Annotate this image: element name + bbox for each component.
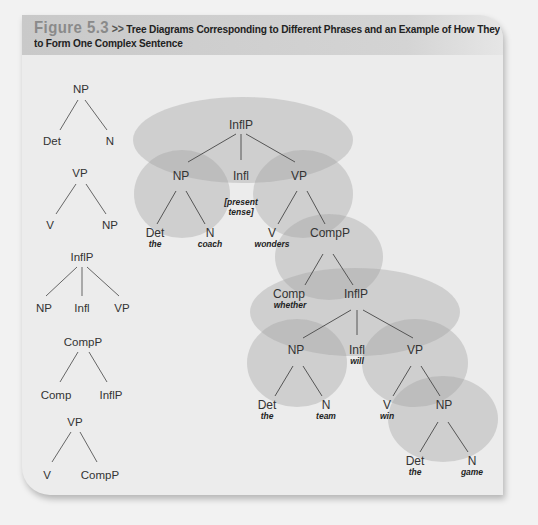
infl-note-line-1: [present xyxy=(223,197,259,207)
node-vp-2: VP xyxy=(407,343,423,357)
node-v: V xyxy=(46,219,54,231)
ellipse-np-team xyxy=(247,319,347,407)
node-compp: CompP xyxy=(81,469,120,481)
node-v-1: V xyxy=(268,226,276,240)
node-vp: VP xyxy=(67,416,83,428)
word-coach: coach xyxy=(198,239,223,249)
ellipse-np-game xyxy=(388,376,498,462)
node-vp: VP xyxy=(114,302,130,314)
node-np-3: NP xyxy=(436,398,453,412)
node-n-2: N xyxy=(322,398,331,412)
node-inflp-2: InflP xyxy=(344,287,368,301)
node-infl-1: Infl xyxy=(233,169,249,183)
word-the-2: the xyxy=(261,411,274,421)
node-np-2: NP xyxy=(288,343,305,357)
node-np-1: NP xyxy=(173,169,190,183)
node-inflp: InflP xyxy=(99,389,122,401)
node-v-2: V xyxy=(383,398,391,412)
node-n: N xyxy=(106,135,114,147)
node-np: NP xyxy=(102,219,118,231)
node-compp: CompP xyxy=(64,336,103,348)
tree-diagrams: NP Det N VP V NP InflP NP Infl VP CompP … xyxy=(0,0,538,525)
ellipse-np-coach xyxy=(134,150,230,238)
node-v: V xyxy=(43,469,51,481)
node-infl: Infl xyxy=(74,302,89,314)
node-comp: Comp xyxy=(273,287,305,301)
word-game: game xyxy=(460,467,483,477)
word-win: win xyxy=(380,411,394,421)
node-det-1: Det xyxy=(146,226,165,240)
node-comp: Comp xyxy=(41,389,72,401)
node-vp-1: VP xyxy=(291,169,307,183)
word-whether: whether xyxy=(274,300,307,310)
small-tree-vp: VP V NP xyxy=(46,167,118,231)
node-vp: VP xyxy=(72,167,88,179)
small-tree-np: NP Det N xyxy=(43,83,114,147)
node-n-1: N xyxy=(206,226,215,240)
word-the-1: the xyxy=(149,239,162,249)
small-tree-inflp: InflP NP Infl VP xyxy=(36,251,130,314)
word-the-3: the xyxy=(409,467,422,477)
node-np: NP xyxy=(73,83,89,95)
node-det-2: Det xyxy=(258,398,277,412)
node-inflp: InflP xyxy=(70,251,93,263)
node-inflp-root: InflP xyxy=(229,118,253,132)
word-will: will xyxy=(350,356,364,366)
word-team: team xyxy=(316,411,336,421)
infl-note-line-2: tense] xyxy=(228,207,254,217)
node-det: Det xyxy=(43,135,62,147)
small-tree-vp-compp: VP V CompP xyxy=(43,416,119,481)
node-infl-2: Infl xyxy=(349,343,365,357)
small-tree-compp: CompP Comp InflP xyxy=(41,336,123,401)
word-wonders: wonders xyxy=(255,239,290,249)
node-np: NP xyxy=(36,302,52,314)
node-compp: CompP xyxy=(310,226,350,240)
node-n-3: N xyxy=(468,454,477,468)
node-det-3: Det xyxy=(406,454,425,468)
